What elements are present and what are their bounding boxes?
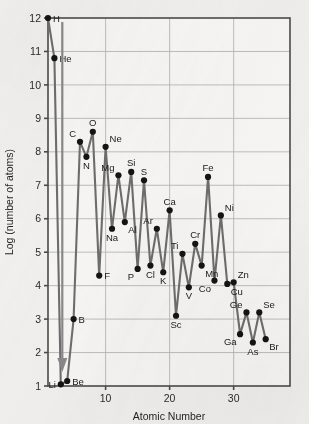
point-label-O: O — [89, 117, 96, 128]
point-label-Cl: Cl — [146, 269, 155, 280]
y-tick-label: 1 — [35, 380, 41, 392]
data-point-He — [51, 55, 57, 61]
data-point-H — [45, 15, 51, 21]
data-point-Mg — [115, 172, 121, 178]
y-axis-title: Log (number of atoms) — [3, 149, 15, 255]
point-label-Be: Be — [72, 376, 84, 387]
y-tick-label: 7 — [35, 179, 41, 191]
y-tick-label: 10 — [29, 79, 41, 91]
point-label-Cu: Cu — [231, 286, 243, 297]
data-point-Ne — [103, 144, 109, 150]
data-point-Se — [256, 309, 262, 315]
data-point-Zn — [231, 279, 237, 285]
x-tick-label: 30 — [228, 392, 240, 404]
data-point-Ar — [154, 226, 160, 232]
point-label-C: C — [69, 128, 76, 139]
y-tick-label: 8 — [35, 145, 41, 157]
point-label-Si: Si — [127, 157, 135, 168]
y-tick-label: 11 — [30, 45, 41, 57]
point-label-Na: Na — [106, 232, 119, 243]
point-label-H: H — [53, 13, 60, 24]
point-label-Ca: Ca — [164, 196, 177, 207]
point-label-N: N — [83, 160, 90, 171]
point-label-Ga: Ga — [224, 336, 237, 347]
point-label-S: S — [141, 166, 147, 177]
abundance-of-elements-chart: 123456789101112102030 HHeLiBeBCNOFNeNaMg… — [0, 0, 309, 424]
point-label-Ni: Ni — [225, 202, 234, 213]
y-tick-label: 4 — [35, 279, 41, 291]
x-tick-label: 20 — [164, 392, 176, 404]
data-point-B — [71, 316, 77, 322]
x-axis-title: Atomic Number — [133, 410, 206, 422]
data-point-Ni — [218, 212, 224, 218]
data-point-Ge — [243, 309, 249, 315]
point-label-Zn: Zn — [238, 269, 249, 280]
data-point-P — [135, 266, 141, 272]
chart-svg: 123456789101112102030 HHeLiBeBCNOFNeNaMg… — [0, 0, 309, 424]
data-point-Cr — [192, 241, 198, 247]
data-point-F — [96, 273, 102, 279]
point-label-Cr: Cr — [190, 229, 200, 240]
point-label-Al: Al — [128, 224, 136, 235]
data-point-Ti — [179, 251, 185, 257]
y-tick-label: 5 — [35, 246, 41, 258]
data-point-Be — [64, 378, 70, 384]
y-tick-label: 9 — [35, 112, 41, 124]
y-tick-label: 6 — [35, 212, 41, 224]
point-label-Fe: Fe — [203, 162, 214, 173]
point-label-F: F — [104, 270, 110, 281]
point-label-K: K — [160, 275, 167, 286]
point-label-P: P — [128, 271, 134, 282]
data-point-Si — [128, 169, 134, 175]
data-point-O — [90, 129, 96, 135]
data-point-Li — [58, 381, 64, 387]
point-label-Ne: Ne — [110, 133, 122, 144]
y-tick-label: 3 — [35, 313, 41, 325]
point-label-Ar: Ar — [143, 215, 153, 226]
data-point-Ca — [167, 207, 173, 213]
point-label-As: As — [247, 346, 258, 357]
x-tick-label: 10 — [100, 392, 112, 404]
data-point-Fe — [205, 174, 211, 180]
point-label-V: V — [186, 290, 193, 301]
point-label-Co: Co — [199, 283, 211, 294]
y-tick-label: 12 — [29, 12, 41, 24]
point-label-Mg: Mg — [101, 162, 114, 173]
point-label-Mn: Mn — [205, 268, 218, 279]
y-tick-label: 2 — [35, 346, 41, 358]
data-point-Mn — [199, 262, 205, 268]
point-label-Li: Li — [48, 379, 55, 390]
point-label-Sc: Sc — [170, 319, 181, 330]
point-label-Br: Br — [269, 341, 279, 352]
data-point-Ga — [237, 331, 243, 337]
data-point-C — [77, 139, 83, 145]
data-point-Cu — [224, 281, 230, 287]
point-label-Ti: Ti — [171, 240, 179, 251]
point-label-Se: Se — [263, 299, 275, 310]
data-point-Al — [122, 219, 128, 225]
data-point-S — [141, 177, 147, 183]
point-label-B: B — [79, 314, 85, 325]
point-label-Ge: Ge — [230, 299, 243, 310]
data-point-Br — [263, 336, 269, 342]
